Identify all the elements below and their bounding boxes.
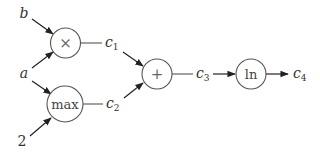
edge-a-to-max	[32, 81, 51, 94]
computation-graph: × max + ln b a 2 c1 c2 c3 c4	[0, 0, 320, 153]
plus-symbol: +	[151, 65, 164, 83]
input-2-label: 2	[18, 133, 27, 149]
edge-a-to-mul	[32, 52, 53, 68]
input-a-label: a	[20, 65, 28, 81]
edge-c1-to-add	[123, 52, 143, 66]
c2-label: c2	[106, 95, 120, 113]
edge-2-to-max	[30, 118, 51, 136]
edge-b-to-mul	[32, 19, 53, 34]
edge-c2-to-add	[124, 83, 143, 98]
input-b-label: b	[20, 5, 29, 21]
c1-label: c1	[105, 34, 119, 52]
node-multiply: ×	[51, 28, 81, 58]
multiply-symbol: ×	[59, 34, 72, 52]
node-max: max	[47, 86, 83, 122]
node-add: +	[142, 59, 172, 89]
node-ln: ln	[236, 59, 266, 89]
c3-label: c3	[196, 65, 210, 83]
c4-label: c4	[293, 65, 307, 83]
ln-label: ln	[245, 67, 258, 82]
max-label: max	[51, 97, 79, 112]
